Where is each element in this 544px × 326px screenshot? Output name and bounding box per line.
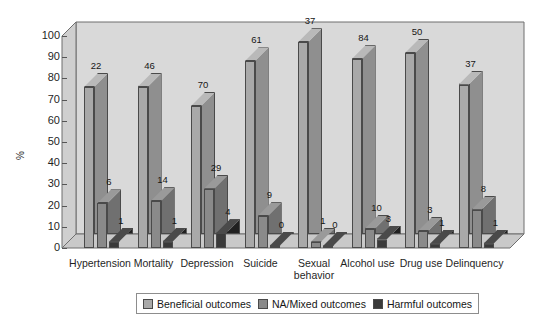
bar-harmful-outcomes-alcohol-use xyxy=(377,226,401,248)
bar-front-face xyxy=(216,233,226,248)
bar-harmful-outcomes-mortality xyxy=(163,228,187,248)
bar-front-face xyxy=(365,229,375,248)
y-tick-mark xyxy=(62,163,67,164)
bar-front-face xyxy=(138,87,148,248)
bar-value-label: 1 xyxy=(103,215,139,226)
chart-legend: Beneficial outcomesNA/Mixed outcomesHarm… xyxy=(136,293,479,314)
bar-value-label: 37 xyxy=(292,15,328,26)
y-tick-mark xyxy=(62,121,67,122)
bar-value-label: 10 xyxy=(359,202,395,213)
bar-front-face xyxy=(472,210,482,248)
y-tick-label: 100 xyxy=(26,30,60,41)
bar-top-face xyxy=(109,228,133,242)
bar-front-face xyxy=(270,246,280,248)
bar-value-label: 0 xyxy=(317,219,353,230)
y-tick-mark xyxy=(62,142,67,143)
bar-front-face xyxy=(97,203,107,248)
bar-harmful-outcomes-sexual-behavior xyxy=(323,232,347,248)
y-tick-mark xyxy=(62,100,67,101)
bar-top-face xyxy=(484,230,508,244)
legend-item: Harmful outcomes xyxy=(373,298,472,310)
y-tick-label: 80 xyxy=(26,72,60,83)
bar-front-face xyxy=(84,87,94,248)
legend-label: Beneficial outcomes xyxy=(157,298,251,310)
bar-front-face xyxy=(377,240,387,248)
y-tick-mark xyxy=(62,227,67,228)
bar-value-label: 61 xyxy=(239,34,275,45)
bar-value-label: 37 xyxy=(453,58,489,69)
legend-label: Harmful outcomes xyxy=(387,298,472,310)
bar-front-face xyxy=(430,244,440,248)
y-tick-mark xyxy=(62,248,67,249)
y-tick-label: 40 xyxy=(26,157,60,168)
bar-value-label: 6 xyxy=(91,176,127,187)
bar-value-label: 3 xyxy=(371,213,407,224)
bar-chart: % 0102030405060708090100 226146141702946… xyxy=(0,0,544,326)
y-tick-label: 50 xyxy=(26,136,60,147)
bar-value-label: 14 xyxy=(145,174,181,185)
bar-front-face xyxy=(163,242,173,248)
legend-swatch xyxy=(373,299,383,309)
bar-harmful-outcomes-drug-use xyxy=(430,230,454,248)
y-tick-label: 0 xyxy=(26,242,60,253)
bar-front-face xyxy=(311,242,321,248)
bar-value-label: 3 xyxy=(412,204,448,215)
bar-value-label: 1 xyxy=(424,217,460,228)
bar-harmful-outcomes-depression xyxy=(216,219,240,248)
y-tick-label: 70 xyxy=(26,94,60,105)
y-tick-mark xyxy=(62,57,67,58)
y-tick-label: 10 xyxy=(26,221,60,232)
bar-value-label: 4 xyxy=(210,206,246,217)
legend-swatch xyxy=(258,299,268,309)
legend-label: NA/Mixed outcomes xyxy=(272,298,366,310)
plot-area: 22614614170294619037108410350313781 xyxy=(62,22,524,256)
bar-value-label: 0 xyxy=(264,219,300,230)
y-tick-mark xyxy=(62,78,67,79)
y-tick-mark xyxy=(62,36,67,37)
y-tick-label: 60 xyxy=(26,115,60,126)
bar-value-label: 70 xyxy=(185,79,221,90)
bar-top-face xyxy=(430,230,454,244)
y-axis-tick-labels: 0102030405060708090100 xyxy=(24,0,60,326)
legend-swatch xyxy=(143,299,153,309)
bar-front-face xyxy=(484,244,494,248)
legend-item: NA/Mixed outcomes xyxy=(258,298,366,310)
bar-value-label: 8 xyxy=(466,183,502,194)
y-tick-mark xyxy=(62,184,67,185)
bar-value-label: 84 xyxy=(346,32,382,43)
y-tick-label: 90 xyxy=(26,51,60,62)
bar-harmful-outcomes-delinquency xyxy=(484,230,508,248)
bar-front-face xyxy=(191,106,201,248)
bar-top-face xyxy=(323,232,347,246)
y-tick-label: 30 xyxy=(26,178,60,189)
bar-front-face xyxy=(204,189,214,248)
bar-top-face xyxy=(270,232,294,246)
x-tick-label-delinquency: Delinquency xyxy=(443,258,507,270)
bar-front-face xyxy=(323,246,333,248)
bar-front-face xyxy=(109,242,119,248)
bar-front-face xyxy=(418,231,428,248)
bar-harmful-outcomes-hypertension xyxy=(109,228,133,248)
bar-front-face xyxy=(352,59,362,248)
bar-harmful-outcomes-suicide xyxy=(270,232,294,248)
bar-side-face xyxy=(308,28,322,234)
bar-value-label: 1 xyxy=(478,217,514,228)
legend-item: Beneficial outcomes xyxy=(143,298,251,310)
bar-value-label: 22 xyxy=(78,60,114,71)
y-tick-mark xyxy=(62,206,67,207)
bar-value-label: 9 xyxy=(252,189,288,200)
y-tick-label: 20 xyxy=(26,200,60,211)
bar-front-face xyxy=(245,61,255,248)
bar-value-label: 1 xyxy=(157,215,193,226)
bar-front-face xyxy=(459,85,469,248)
bar-value-label: 46 xyxy=(132,60,168,71)
bar-front-face xyxy=(405,53,415,248)
bar-value-label: 50 xyxy=(399,26,435,37)
bar-top-face xyxy=(163,228,187,242)
bar-value-label: 29 xyxy=(198,162,234,173)
